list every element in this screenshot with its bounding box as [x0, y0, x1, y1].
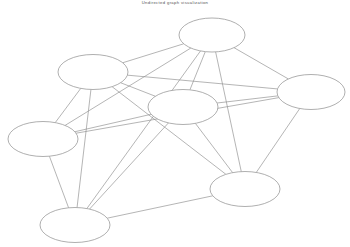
- graph-edge: [123, 44, 184, 63]
- graph-edge: [127, 75, 277, 89]
- graph-node-shape[interactable]: [277, 75, 345, 110]
- graph-edge: [234, 48, 288, 79]
- graph-node-shape[interactable]: [148, 90, 218, 125]
- graph-node-shape[interactable]: [58, 55, 128, 90]
- graph-node[interactable]: [8, 122, 78, 157]
- graph-node-shape[interactable]: [8, 122, 78, 157]
- graph-edge: [256, 109, 299, 173]
- graph-node-shape[interactable]: [40, 208, 110, 243]
- graph-edge: [190, 52, 205, 90]
- graph-node[interactable]: [148, 90, 218, 125]
- graph-edge: [90, 123, 169, 209]
- graph-edge: [107, 196, 213, 218]
- graph-edge: [49, 156, 68, 208]
- graph-node[interactable]: [40, 208, 110, 243]
- graph-edge: [216, 52, 242, 172]
- graph-edge: [121, 83, 156, 97]
- node-layer: [8, 18, 345, 243]
- graph-node[interactable]: [277, 75, 345, 110]
- graph-edge: [77, 89, 91, 207]
- graph-edge: [75, 114, 151, 131]
- graph-node[interactable]: [179, 18, 245, 52]
- graph-node-shape[interactable]: [179, 18, 245, 52]
- graph-node[interactable]: [58, 55, 128, 90]
- graph-node[interactable]: [210, 172, 280, 207]
- graph-edge: [55, 88, 81, 122]
- graph-node-shape[interactable]: [210, 172, 280, 207]
- graph-figure: Undirected graph visualization: [0, 0, 350, 247]
- graph-canvas: [0, 0, 350, 247]
